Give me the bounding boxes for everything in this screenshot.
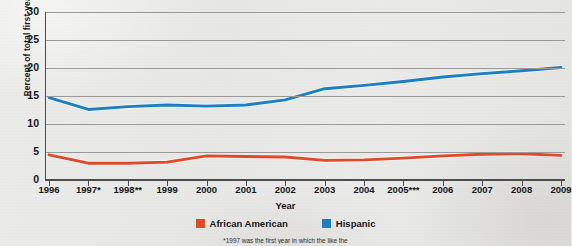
x-axis-tick-label: 2008: [511, 184, 532, 195]
legend-item-label: African American: [210, 218, 288, 229]
legend-swatch-icon: [322, 219, 331, 228]
y-axis-line: [45, 12, 46, 180]
x-axis-tick-label: 1996: [38, 184, 59, 195]
y-axis-tick-label: 10: [13, 117, 39, 129]
gridline: [45, 12, 565, 13]
x-axis-tick-label: 2007: [472, 184, 493, 195]
x-axis-tick-label: 2009: [550, 184, 571, 195]
x-axis-tick-label: 1998**: [114, 184, 143, 195]
x-axis-tick-label: 1997*: [76, 184, 101, 195]
legend-swatch-icon: [196, 219, 205, 228]
y-axis-tick-label: 25: [13, 33, 39, 45]
y-axis-tick-label: 5: [13, 145, 39, 157]
y-axis-tick-label: 15: [13, 89, 39, 101]
chart-footnote: *1997 was the first year in which the li…: [0, 237, 571, 244]
gridline: [45, 124, 565, 125]
x-axis-title: Year: [0, 200, 571, 211]
legend-item-african-american: African American: [196, 218, 288, 229]
gridline: [45, 96, 565, 97]
plot-area: [45, 12, 565, 180]
y-axis-tick-label: 30: [13, 5, 39, 17]
x-axis-tick-label: 2004: [353, 184, 374, 195]
gridline: [45, 152, 565, 153]
legend-item-label: Hispanic: [336, 218, 376, 229]
x-axis-tick-label: 2000: [196, 184, 217, 195]
x-axis-line: [45, 179, 565, 181]
y-axis-tick-label: 20: [13, 61, 39, 73]
x-axis-tick-label: 2001: [235, 184, 256, 195]
series-line-african-american: [49, 154, 561, 164]
chart-legend: African AmericanHispanic: [0, 218, 571, 229]
y-axis-tick-label: 0: [13, 173, 39, 185]
series-line-hispanic: [49, 67, 561, 109]
gridline: [45, 40, 565, 41]
legend-item-hispanic: Hispanic: [322, 218, 376, 229]
gridline: [45, 68, 565, 69]
x-axis-tick-label: 2005***: [387, 184, 419, 195]
x-axis-tick-label: 2006: [432, 184, 453, 195]
x-axis-tick-label: 1999: [157, 184, 178, 195]
x-axis-tick-label: 2002: [275, 184, 296, 195]
x-axis-tick-label: 2003: [314, 184, 335, 195]
